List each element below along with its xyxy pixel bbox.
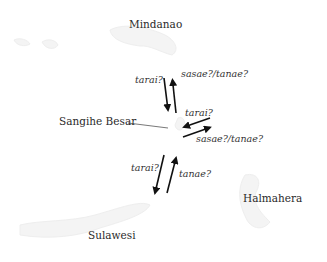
direction-terms-diagram: Mindanao Sangihe Besar Halmahera Sulawes… [0,0,327,262]
label-mindanao: Mindanao [129,19,182,30]
island-mindanao-outline [110,26,176,55]
diagram-graphics [0,0,327,262]
island-sangihe-outline [175,117,185,130]
arrow-north-inbound [173,80,177,113]
term-south-outbound: tarai? [131,163,159,173]
arrow-south-outbound [155,155,164,193]
arrow-south-inbound [167,158,176,193]
label-sangihe-besar: Sangihe Besar [59,116,136,127]
label-sulawesi: Sulawesi [88,230,136,241]
term-east-inbound: tarai? [185,108,213,118]
term-north-inbound: sasae?/tanae? [181,69,248,79]
label-halmahera: Halmahera [243,193,302,204]
arrow-east-inbound [184,118,210,127]
arrow-north-outbound [164,78,168,110]
faint-map-outlines [14,26,270,237]
term-east-outbound: sasae?/tanae? [196,134,263,144]
island-small-northwest [42,40,58,49]
island-small-northwest-2 [14,39,30,46]
term-north-outbound: tarai? [135,75,163,85]
term-south-inbound: tanae? [179,169,211,179]
